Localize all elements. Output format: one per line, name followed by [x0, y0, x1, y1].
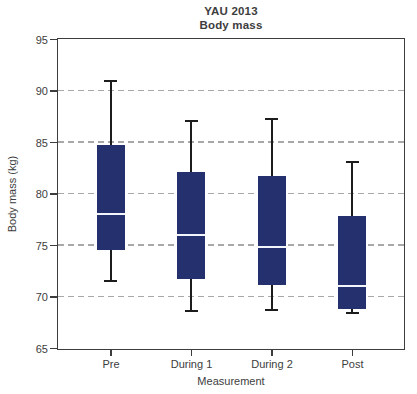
median-during-1: [177, 234, 205, 236]
x-tick-label-during-2: During 2: [232, 358, 312, 371]
x-tick-label-during-1: During 1: [152, 358, 232, 371]
whisker-cap-lower-pre: [104, 280, 117, 282]
y-tick-mark-85: [50, 142, 57, 144]
y-tick-label-80: 80: [20, 187, 48, 201]
x-tick-mark-during-2: [271, 350, 273, 356]
box-pre: [97, 145, 125, 250]
chart-subtitle: Body mass: [57, 19, 405, 31]
whisker-lower-pre: [110, 250, 112, 281]
box-during-1: [177, 172, 205, 279]
box-post: [338, 216, 366, 309]
y-tick-label-90: 90: [20, 84, 48, 98]
y-tick-label-75: 75: [20, 239, 48, 253]
x-tick-label-pre: Pre: [71, 358, 151, 371]
y-tick-label-70: 70: [20, 290, 48, 304]
y-tick-mark-75: [50, 245, 57, 247]
chart-title: YAU 2013: [57, 5, 405, 17]
x-tick-label-post: Post: [313, 358, 393, 371]
whisker-cap-upper-during-2: [265, 118, 278, 120]
whisker-upper-during-1: [190, 121, 192, 171]
whisker-lower-during-1: [190, 279, 192, 311]
whisker-cap-upper-during-1: [185, 120, 198, 122]
y-tick-mark-80: [50, 193, 57, 195]
y-axis-label: Body mass (kg): [6, 119, 18, 269]
y-tick-mark-70: [50, 296, 57, 298]
median-post: [338, 285, 366, 287]
whisker-cap-upper-post: [346, 161, 359, 163]
y-tick-label-95: 95: [20, 33, 48, 47]
whisker-cap-lower-during-2: [265, 309, 278, 311]
whisker-upper-pre: [110, 81, 112, 145]
boxplot-figure: YAU 2013 Body mass Body mass (kg) 959085…: [0, 0, 417, 394]
x-tick-mark-pre: [110, 350, 112, 356]
whisker-cap-upper-pre: [104, 80, 117, 82]
median-during-2: [258, 246, 286, 248]
x-tick-mark-during-1: [191, 350, 193, 356]
y-tick-mark-65: [50, 348, 57, 350]
whisker-cap-lower-during-1: [185, 310, 198, 312]
whisker-upper-during-2: [271, 119, 273, 176]
box-during-2: [258, 176, 286, 285]
y-tick-mark-95: [50, 39, 57, 41]
x-tick-mark-post: [352, 350, 354, 356]
y-tick-mark-90: [50, 90, 57, 92]
x-axis-label: Measurement: [57, 375, 405, 387]
median-pre: [97, 213, 125, 215]
whisker-upper-post: [351, 162, 353, 217]
y-tick-label-85: 85: [20, 136, 48, 150]
whisker-cap-lower-post: [346, 312, 359, 314]
plot-area: [57, 38, 405, 350]
whisker-lower-during-2: [271, 285, 273, 310]
y-tick-label-65: 65: [20, 342, 48, 356]
